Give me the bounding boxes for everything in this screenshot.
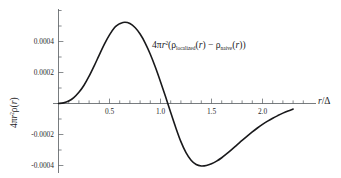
y-axis-ticks bbox=[59, 11, 64, 166]
y-tick-label-3: -0.0004 bbox=[31, 161, 54, 170]
y-tick-label-2: -0.0002 bbox=[31, 130, 54, 139]
x-tick-label-3: 2.0 bbox=[258, 107, 268, 116]
svg-text:4πr2ρ(r): 4πr2ρ(r) bbox=[9, 97, 20, 128]
y-axis-label: 4πr2ρ(r) bbox=[9, 97, 20, 128]
y-tick-label-0: 0.0004 bbox=[34, 37, 55, 46]
x-tick-label-0: 0.5 bbox=[105, 107, 115, 116]
curve-annotation: 4πr2(ρlocalized(r) − ρnaive(r)) bbox=[152, 39, 246, 51]
y-tick-label-1: 0.0002 bbox=[34, 68, 55, 77]
figure-container: 0.5 1.0 1.5 2.0 0.0004 0.0002 -0.0002 -0… bbox=[0, 0, 341, 178]
svg-text:4πr2(ρlocalized(r) − ρnaive(r): 4πr2(ρlocalized(r) − ρnaive(r)) bbox=[152, 39, 246, 51]
x-axis-ticks bbox=[69, 99, 304, 104]
x-axis-label: r/Δ bbox=[318, 96, 330, 106]
x-tick-label-2: 1.5 bbox=[207, 107, 217, 116]
x-tick-label-1: 1.0 bbox=[156, 107, 166, 116]
density-difference-chart: 0.5 1.0 1.5 2.0 0.0004 0.0002 -0.0002 -0… bbox=[0, 0, 341, 178]
